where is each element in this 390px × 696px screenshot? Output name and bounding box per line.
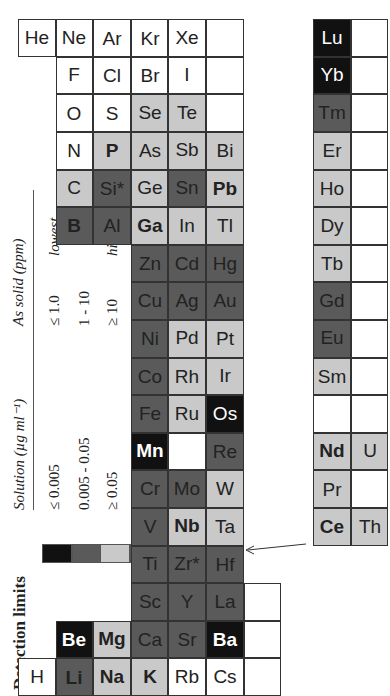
element-sr: Sr xyxy=(168,621,206,659)
empty-cell xyxy=(244,621,282,659)
element-symbol: He xyxy=(25,27,49,49)
element-tl: Tl xyxy=(206,207,244,245)
element-symbol: O xyxy=(67,102,82,124)
element-cd: Cd xyxy=(168,245,206,283)
element-symbol: Dy xyxy=(320,215,343,237)
element-mn: Mn xyxy=(131,433,169,471)
element-n: N xyxy=(56,132,94,170)
element-symbol: Li xyxy=(66,666,83,688)
element-symbol: Zn xyxy=(139,253,161,275)
element-hf: Hf xyxy=(206,546,244,584)
element-symbol: Te xyxy=(177,102,197,124)
element-s: S xyxy=(93,94,131,132)
element-ga: Ga xyxy=(131,207,169,245)
element-tb: Tb xyxy=(313,245,351,283)
element-kr: Kr xyxy=(131,19,169,57)
element-symbol: Rb xyxy=(175,666,199,688)
element-symbol: Bi xyxy=(216,140,233,162)
element-symbol: Sb xyxy=(176,140,199,162)
element-ru: Ru xyxy=(168,395,206,433)
legend-solid-2: ≥ 10 xyxy=(104,299,121,326)
element-in: In xyxy=(168,207,206,245)
element-i: I xyxy=(168,57,206,95)
element-as: As xyxy=(131,132,169,170)
element-symbol: Eu xyxy=(320,328,343,350)
element-symbol: Er xyxy=(322,140,341,162)
element-symbol: V xyxy=(143,516,156,538)
element-ne: Ne xyxy=(56,19,94,57)
element-sn: Sn xyxy=(168,170,206,208)
element-symbol: Rh xyxy=(175,365,199,387)
element-rh: Rh xyxy=(168,358,206,396)
element-symbol: Br xyxy=(140,65,159,87)
periodic-table-diagram: Detection limits Solution (µg ml⁻¹) As s… xyxy=(0,0,390,696)
element-ir: Ir xyxy=(206,358,244,396)
element-symbol: Mg xyxy=(98,629,125,651)
element-p: P xyxy=(93,132,131,170)
empty-cell xyxy=(351,207,389,245)
element-symbol: In xyxy=(179,215,195,237)
element-symbol: Cs xyxy=(213,666,236,688)
empty-cell xyxy=(351,94,389,132)
element-ti: Ti xyxy=(131,546,169,584)
element-ta: Ta xyxy=(206,508,244,546)
element-symbol: Cd xyxy=(175,253,199,275)
element-symbol: Ru xyxy=(175,403,199,425)
element-bi: Bi xyxy=(206,132,244,170)
element-symbol: Zr* xyxy=(175,553,200,575)
element-symbol: Nd xyxy=(319,441,344,463)
element-symbol: Si* xyxy=(100,177,124,199)
element-cu: Cu xyxy=(131,282,169,320)
element-dy: Dy xyxy=(313,207,351,245)
element-sb: Sb xyxy=(168,132,206,170)
element-symbol: Ni xyxy=(141,328,159,350)
element-au: Au xyxy=(206,282,244,320)
element-symbol: I xyxy=(185,65,190,87)
empty-cell xyxy=(206,57,244,95)
element-symbol: Ne xyxy=(62,27,86,49)
element-v: V xyxy=(131,508,169,546)
element-symbol: Pb xyxy=(213,177,237,199)
element-symbol: Pt xyxy=(216,328,234,350)
element-symbol: Ti xyxy=(142,553,157,575)
element-sm: Sm xyxy=(313,358,351,396)
element-la: La xyxy=(206,583,244,621)
legend-solution-1: 0.005 - 0.05 xyxy=(76,438,93,511)
empty-cell xyxy=(351,132,389,170)
element-er: Er xyxy=(313,132,351,170)
element-sc: Sc xyxy=(131,583,169,621)
legend-swatch-lowest xyxy=(42,544,72,563)
element-eu: Eu xyxy=(313,320,351,358)
element-cl: Cl xyxy=(93,57,131,95)
element-fe: Fe xyxy=(131,395,169,433)
element-rb: Rb xyxy=(168,658,206,696)
element-symbol: Pr xyxy=(322,478,341,500)
element-symbol: W xyxy=(216,478,234,500)
element-symbol: H xyxy=(30,666,44,688)
element-symbol: Ir xyxy=(219,365,231,387)
element-os: Os xyxy=(206,395,244,433)
element-symbol: Al xyxy=(104,215,121,237)
element-symbol: Tl xyxy=(217,215,233,237)
element-ce: Ce xyxy=(313,508,351,546)
legend-divider xyxy=(33,190,34,510)
element-mo: Mo xyxy=(168,470,206,508)
element-pt: Pt xyxy=(206,320,244,358)
legend-header-solution: Solution (µg ml⁻¹) xyxy=(10,399,28,510)
element-symbol: Cu xyxy=(137,290,161,312)
element-symbol: Tb xyxy=(321,253,343,275)
element-symbol: Sr xyxy=(178,629,197,651)
element-symbol: Ga xyxy=(137,215,162,237)
element-symbol: Fe xyxy=(139,403,161,425)
element-k: K xyxy=(131,658,169,696)
legend-solid-0: ≤ 1.0 xyxy=(46,295,63,326)
element-zr: Zr* xyxy=(168,546,206,584)
element-symbol: Lu xyxy=(321,27,342,49)
element-symbol: Re xyxy=(213,441,237,463)
empty-cell xyxy=(244,658,282,696)
element-nd: Nd xyxy=(313,433,351,471)
empty-cell xyxy=(351,320,389,358)
element-si: Si* xyxy=(93,170,131,208)
element-symbol: Se xyxy=(138,102,161,124)
element-pd: Pd xyxy=(168,320,206,358)
